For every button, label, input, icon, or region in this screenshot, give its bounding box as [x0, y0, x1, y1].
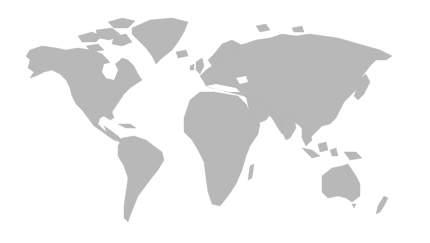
madagascar — [248, 164, 254, 180]
world-map — [0, 0, 430, 243]
world-map-svg — [0, 0, 430, 243]
arctic-islands — [78, 18, 135, 52]
uk-ireland — [190, 58, 204, 74]
india — [280, 116, 296, 140]
south-america — [118, 136, 164, 222]
africa — [184, 92, 260, 206]
indonesia — [302, 142, 362, 160]
iceland — [176, 50, 188, 58]
new-zealand — [376, 196, 388, 214]
australia — [322, 164, 360, 202]
